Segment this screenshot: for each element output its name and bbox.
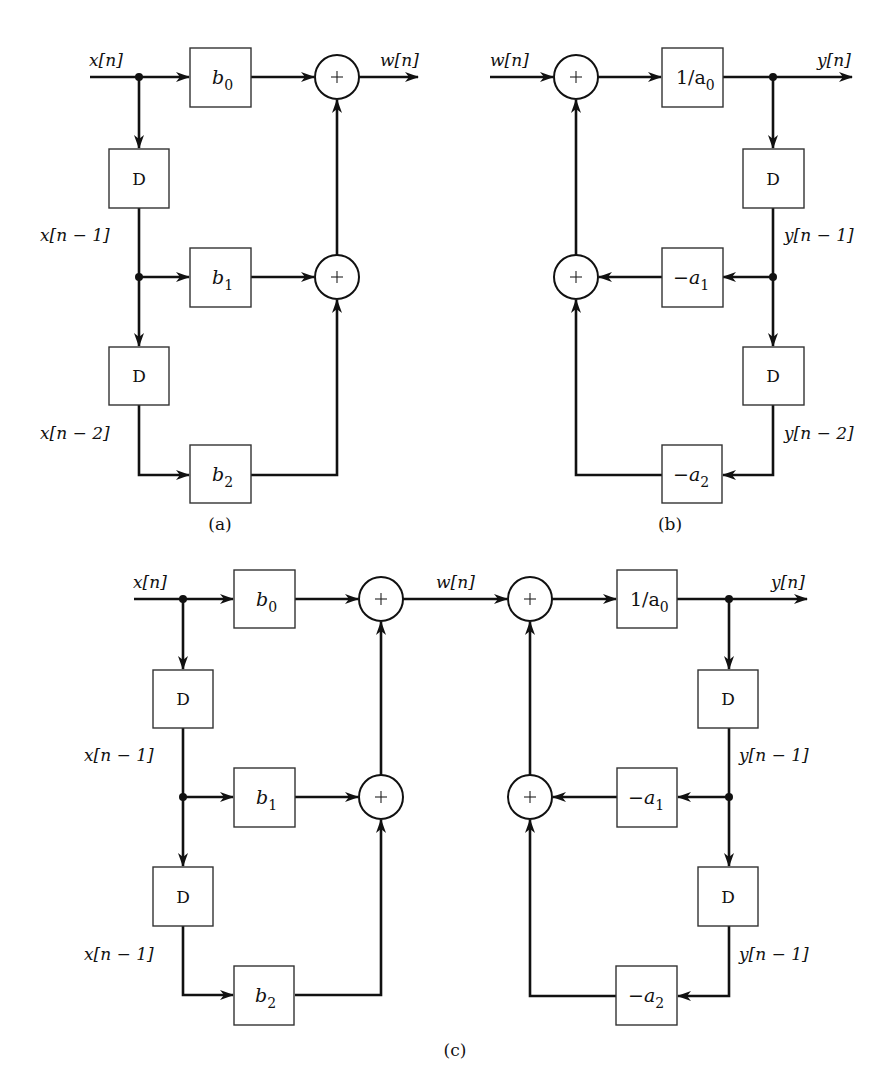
- label-y-delay2-signal: y[n − 1]: [738, 944, 809, 964]
- label-input-signal: x[n]: [89, 50, 123, 70]
- block-delay-y2: D: [698, 867, 758, 926]
- block-neg-a1: −a1: [662, 248, 723, 307]
- panel-c: b0 D b1 D b2 1/a0 D −a1: [84, 570, 809, 1060]
- block-b2: b2: [190, 445, 251, 503]
- junction-dot: [725, 793, 733, 801]
- block-neg-a2: −a2: [662, 445, 722, 503]
- adder-fir-top: [359, 577, 403, 621]
- svg-text:D: D: [721, 887, 735, 907]
- block-delay-x1: D: [153, 670, 213, 728]
- svg-text:D: D: [766, 169, 780, 189]
- block-b1: b1: [234, 768, 295, 827]
- wire-delay2-to-a2: [678, 926, 729, 996]
- block-b0: b0: [234, 570, 295, 628]
- wire-a2-to-adder2: [576, 300, 662, 475]
- label-delay2-signal: y[n − 2]: [783, 423, 854, 443]
- block-neg-a1: −a1: [617, 768, 677, 827]
- panel-a: b0 D b1 D b2 x[n] w[n] x[n − 1]: [40, 48, 419, 534]
- junction-dot: [725, 595, 733, 603]
- wire-b2-to-adder2: [251, 300, 337, 475]
- adder-top: [315, 55, 359, 99]
- label-x-delay1-signal: x[n − 1]: [84, 745, 154, 765]
- adder-iir-bottom: [508, 775, 552, 819]
- block-b2: b2: [234, 966, 294, 1025]
- adder-iir-top: [508, 577, 552, 621]
- adder-top: [554, 55, 598, 99]
- junction-dot: [135, 273, 143, 281]
- caption-c: (c): [444, 1040, 467, 1060]
- junction-dot: [179, 793, 187, 801]
- adder-bottom: [315, 255, 359, 299]
- panel-b: 1/a0 D −a1 D −a2 w[n] y[n] y[n − 1] y: [490, 48, 854, 534]
- label-output-signal: y[n]: [770, 572, 805, 592]
- svg-text:D: D: [176, 689, 190, 709]
- svg-text:D: D: [176, 887, 190, 907]
- block-delay-1: D: [743, 149, 804, 208]
- label-delay1-signal: y[n − 1]: [783, 225, 854, 245]
- block-diagram-canvas: b0 D b1 D b2 x[n] w[n] x[n − 1]: [0, 0, 881, 1089]
- svg-text:D: D: [132, 169, 146, 189]
- block-delay-2: D: [109, 347, 169, 405]
- label-input-signal: x[n]: [133, 572, 167, 592]
- block-b1: b1: [190, 248, 251, 307]
- block-b0: b0: [190, 48, 251, 107]
- block-gain-inv-a0: 1/a0: [662, 48, 723, 107]
- block-delay-2: D: [743, 347, 804, 405]
- block-delay-y1: D: [698, 670, 758, 728]
- junction-dot: [179, 595, 187, 603]
- block-gain-inv-a0: 1/a0: [617, 570, 677, 628]
- label-output-signal: w[n]: [380, 50, 419, 70]
- adder-fir-bottom: [359, 775, 403, 819]
- label-x-delay2-signal: x[n − 1]: [84, 944, 154, 964]
- block-delay-1: D: [109, 149, 169, 208]
- caption-a: (a): [208, 514, 231, 534]
- label-output-signal: y[n]: [816, 50, 851, 70]
- caption-b: (b): [658, 514, 682, 534]
- wire-delay2-to-a2: [723, 405, 773, 475]
- block-delay-x2: D: [153, 867, 213, 926]
- label-intermediate-signal: w[n]: [436, 572, 475, 592]
- adder-bottom: [554, 255, 598, 299]
- wire-a2-to-adder2: [530, 820, 616, 996]
- wire-delay2-to-b2: [183, 926, 233, 995]
- label-input-signal: w[n]: [490, 50, 529, 70]
- label-delay1-signal: x[n − 1]: [40, 225, 110, 245]
- junction-dot: [769, 273, 777, 281]
- junction-dot: [135, 73, 143, 81]
- block-neg-a2: −a2: [616, 966, 677, 1025]
- label-y-delay1-signal: y[n − 1]: [738, 745, 809, 765]
- wire-b2-to-adder2: [295, 820, 381, 995]
- wire-delay2-to-b2: [139, 405, 189, 475]
- svg-text:D: D: [132, 366, 146, 386]
- svg-text:D: D: [766, 366, 780, 386]
- label-delay2-signal: x[n − 2]: [40, 423, 110, 443]
- junction-dot: [769, 73, 777, 81]
- svg-text:D: D: [721, 689, 735, 709]
